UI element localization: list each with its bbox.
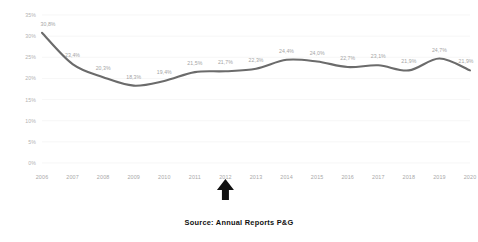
line-chart-svg: 0%5%10%15%20%25%30%35% 20062007200820092… bbox=[0, 0, 478, 200]
plot-area: 0%5%10%15%20%25%30%35% 20062007200820092… bbox=[0, 0, 478, 200]
data-point-label: 20,3% bbox=[96, 65, 111, 71]
y-axis-tick-label: 10% bbox=[25, 118, 36, 124]
data-point-label: 24,4% bbox=[279, 48, 294, 54]
y-axis-tick-label: 35% bbox=[25, 12, 36, 18]
y-axis-tick-label: 20% bbox=[25, 75, 36, 81]
data-point-label: 23,4% bbox=[65, 52, 80, 58]
x-axis-tick-label: 2007 bbox=[66, 174, 79, 180]
x-axis-tick-label: 2009 bbox=[127, 174, 140, 180]
y-axis-tick-label: 5% bbox=[28, 139, 36, 145]
x-axis-tick-label: 2020 bbox=[464, 174, 477, 180]
annotations-layer bbox=[217, 179, 234, 200]
x-axis-tick-labels: 2006200720082009201020112012201320142015… bbox=[36, 174, 477, 180]
data-point-label: 21,9% bbox=[401, 58, 416, 64]
data-point-label: 21,7% bbox=[218, 59, 233, 65]
y-axis-tick-label: 0% bbox=[28, 160, 36, 166]
data-point-label: 18,3% bbox=[126, 74, 141, 80]
y-axis-tick-label: 15% bbox=[25, 97, 36, 103]
x-axis-tick-label: 2018 bbox=[403, 174, 416, 180]
data-point-label: 21,5% bbox=[187, 60, 202, 66]
x-axis-tick-label: 2010 bbox=[158, 174, 171, 180]
y-axis-tick-label: 30% bbox=[25, 33, 36, 39]
x-axis-tick-label: 2006 bbox=[36, 174, 49, 180]
data-point-label: 23,1% bbox=[371, 53, 386, 59]
x-axis-tick-label: 2017 bbox=[372, 174, 385, 180]
data-point-label: 24,7% bbox=[432, 47, 447, 53]
x-axis-tick-label: 2015 bbox=[311, 174, 324, 180]
source-caption: Source: Annual Reports P&G bbox=[0, 218, 478, 227]
x-axis-tick-label: 2008 bbox=[97, 174, 110, 180]
data-point-label: 21,9% bbox=[459, 58, 474, 64]
data-point-label: 24,0% bbox=[310, 50, 325, 56]
x-axis-tick-label: 2016 bbox=[341, 174, 354, 180]
x-axis-tick-label: 2011 bbox=[189, 174, 201, 180]
up-arrow-annotation-2012 bbox=[217, 179, 234, 200]
y-axis-tick-labels: 0%5%10%15%20%25%30%35% bbox=[25, 12, 36, 166]
x-axis-tick-label: 2019 bbox=[433, 174, 446, 180]
data-point-label: 22,3% bbox=[249, 57, 264, 63]
y-axis-tick-label: 25% bbox=[25, 54, 36, 60]
x-axis-tick-label: 2013 bbox=[250, 174, 263, 180]
x-axis-tick-label: 2014 bbox=[280, 174, 293, 180]
data-point-label: 22,7% bbox=[340, 55, 355, 61]
chart-container: 0%5%10%15%20%25%30%35% 20062007200820092… bbox=[0, 0, 478, 242]
gridlines bbox=[42, 15, 470, 163]
data-point-label: 19,4% bbox=[157, 69, 172, 75]
data-point-label: 30,8% bbox=[41, 21, 56, 27]
